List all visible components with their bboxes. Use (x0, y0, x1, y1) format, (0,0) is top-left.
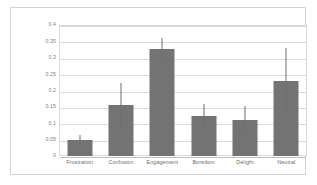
bar-group (224, 25, 265, 156)
x-axis: FrustrationConfusionEngagementBoredomDel… (59, 159, 307, 171)
error-bar (203, 104, 204, 129)
y-tick-label: 0.2 (12, 88, 56, 93)
y-tick-label: 0.25 (12, 72, 56, 77)
x-tick-label: Frustration (59, 159, 100, 166)
x-tick-label: Boredom (183, 159, 224, 166)
x-tick-label: Neutral (266, 159, 307, 166)
y-tick-label: 0 (12, 153, 56, 158)
x-tick-label: Engagement (142, 159, 183, 166)
y-tick-label: 0.1 (12, 121, 56, 126)
chart-frame: 00.050.10.150.20.250.30.350.4 Frustratio… (10, 7, 306, 175)
error-bar (79, 135, 80, 145)
bar (150, 49, 175, 156)
bar-group (59, 25, 100, 156)
y-tick-label: 0.4 (12, 22, 56, 27)
gridline (60, 157, 306, 158)
y-axis: 00.050.10.150.20.250.30.350.4 (11, 25, 56, 156)
error-bar (244, 106, 245, 134)
chart-figure: 00.050.10.150.20.250.30.350.4 Frustratio… (0, 0, 317, 185)
y-tick-label: 0.35 (12, 39, 56, 44)
y-tick-label: 0.3 (12, 55, 56, 60)
error-bar (286, 48, 287, 113)
bar-group (183, 25, 224, 156)
bar-group (142, 25, 183, 156)
bar-series (59, 25, 307, 156)
x-tick-label: Confusion (100, 159, 141, 166)
error-bar (120, 83, 121, 126)
bar-group (100, 25, 141, 156)
y-tick-label: 0.05 (12, 137, 56, 142)
bar-group (266, 25, 307, 156)
error-bar (162, 38, 163, 61)
y-tick-label: 0.15 (12, 104, 56, 109)
x-tick-label: Delight (224, 159, 265, 166)
